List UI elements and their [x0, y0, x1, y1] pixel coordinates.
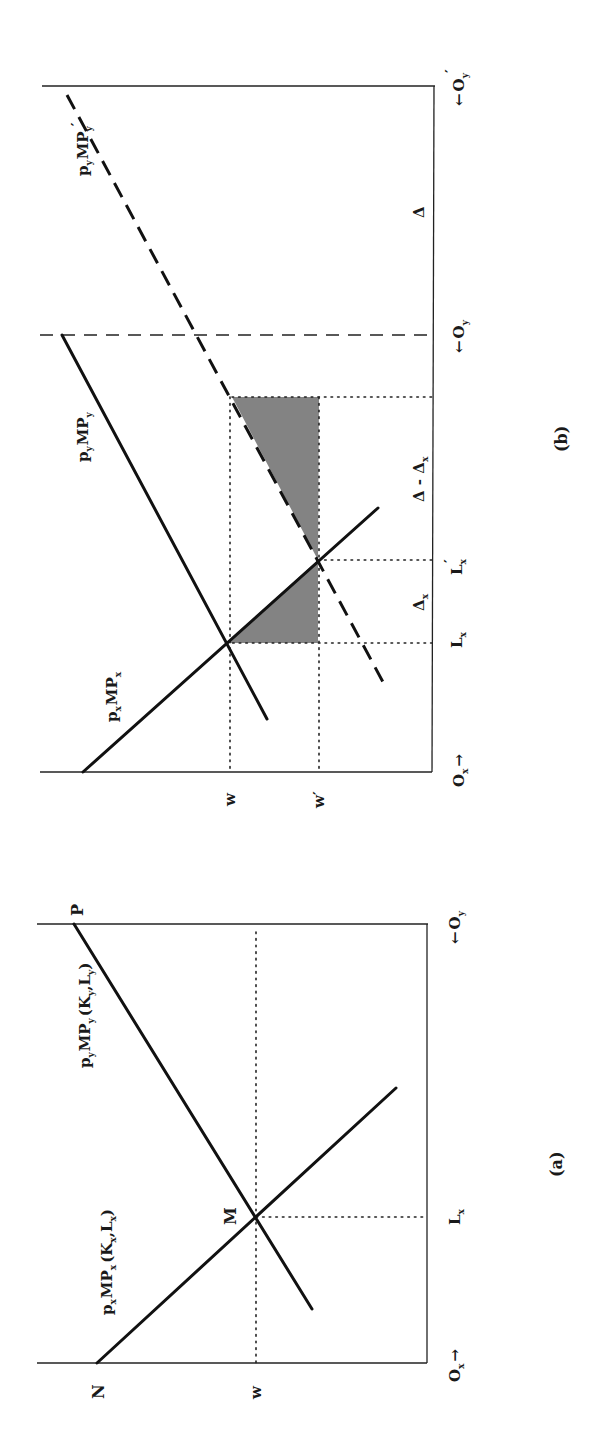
svg-text:←Oy′: ←Oy′ — [442, 69, 470, 106]
svg-text:(a): (a) — [547, 1151, 566, 1177]
b-label-py-mpy-prime: pyMPy′ — [68, 122, 94, 176]
panel-a: pyMPy(Ky,Ly) pxMPx(Kx,Lx) M P N w Lx Ox→… — [37, 904, 566, 1400]
a-label-lx: Lx — [446, 1208, 466, 1225]
figure: pyMPy pyMPy′ pxMPx w w′ Δ Δ - Δx Δx Lx′ … — [0, 0, 610, 1443]
a-label-m: M — [221, 1207, 240, 1225]
svg-text:Δ - Δx: Δ - Δx — [410, 456, 430, 502]
svg-text:Lx: Lx — [448, 631, 468, 648]
svg-text:Lx: Lx — [446, 1208, 466, 1225]
b-right-axis — [432, 86, 434, 772]
svg-text:Δ: Δ — [410, 206, 428, 218]
b-label-py-mpy: pyMPy — [74, 411, 94, 462]
diagram-canvas: pyMPy pyMPy′ pxMPx w w′ Δ Δ - Δx Δx Lx′ … — [0, 0, 610, 1443]
b-caption: (b) — [552, 426, 571, 452]
b-label-delta-minus-delta-x: Δ - Δx — [410, 456, 430, 502]
svg-text:(b): (b) — [552, 426, 571, 452]
b-label-delta-x: Δx — [410, 593, 430, 611]
svg-text:Ox→: Ox→ — [450, 754, 470, 787]
svg-text:Δx: Δx — [410, 593, 430, 611]
svg-text:pxMPx(Kx,Lx): pxMPx(Kx,Lx) — [98, 1209, 118, 1315]
b-label-origin-y: ←Oy — [450, 319, 470, 353]
svg-text:←Oy: ←Oy — [450, 319, 470, 353]
svg-text:P: P — [68, 904, 87, 916]
b-label-origin-y-prime: ←Oy′ — [442, 69, 470, 106]
b-label-lx-prime: Lx′ — [441, 558, 468, 575]
svg-text:pyMPy′: pyMPy′ — [68, 122, 94, 176]
a-label-px-mpx: pxMPx(Kx,Lx) — [98, 1209, 118, 1315]
shaded-region-delta-minus-delta-x — [232, 397, 319, 560]
b-label-px-mpx: pxMPx — [103, 671, 123, 722]
a-px-mpx-curve — [97, 1088, 396, 1363]
svg-text:Ox→: Ox→ — [446, 1349, 466, 1382]
svg-text:w′: w′ — [310, 791, 328, 809]
panel-b: pyMPy pyMPy′ pxMPx w w′ Δ Δ - Δx Δx Lx′ … — [40, 69, 571, 809]
a-label-origin-y: ←Oy — [446, 910, 466, 944]
svg-text:w: w — [247, 1385, 265, 1400]
svg-text:pyMPy: pyMPy — [74, 411, 94, 462]
a-label-p: P — [68, 904, 87, 916]
b-label-w: w — [221, 792, 239, 807]
svg-text:←Oy: ←Oy — [446, 910, 466, 944]
a-label-n: N — [89, 1384, 108, 1399]
svg-text:Lx′: Lx′ — [441, 558, 468, 575]
b-label-delta: Δ — [410, 206, 428, 218]
a-label-py-mpy: pyMPy(Ky,Ly) — [76, 963, 96, 1068]
b-py-mpy-curve — [62, 335, 267, 719]
svg-text:pyMPy(Ky,Ly): pyMPy(Ky,Ly) — [76, 963, 96, 1068]
a-caption: (a) — [547, 1151, 566, 1177]
b-label-w-prime: w′ — [310, 791, 328, 809]
a-label-w: w — [247, 1385, 265, 1400]
svg-text:w: w — [221, 792, 239, 807]
svg-text:N: N — [89, 1384, 108, 1399]
b-px-mpx-curve — [83, 508, 378, 772]
svg-text:M: M — [221, 1207, 240, 1225]
svg-text:pxMPx: pxMPx — [103, 671, 123, 722]
a-label-origin-x: Ox→ — [446, 1349, 466, 1382]
b-label-origin-x: Ox→ — [450, 754, 470, 787]
b-py-mpy-prime-curve — [67, 95, 383, 682]
b-label-lx: Lx — [448, 631, 468, 648]
